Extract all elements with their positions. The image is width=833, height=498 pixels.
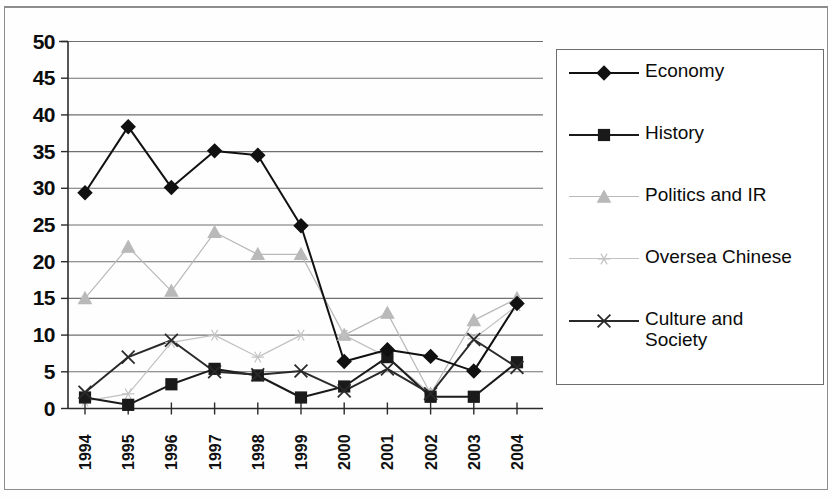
square-marker-icon bbox=[123, 399, 134, 410]
y-tick-label: 0 bbox=[44, 398, 55, 419]
triangle-marker-icon bbox=[598, 191, 611, 203]
legend-label: Politics and IR bbox=[641, 184, 766, 205]
legend-marker bbox=[593, 124, 615, 146]
diamond-marker-icon bbox=[122, 120, 135, 133]
series-markers-oversea-chinese bbox=[79, 300, 523, 406]
y-tick-label: 50 bbox=[33, 31, 55, 52]
series-markers-culture-and-society bbox=[79, 333, 524, 400]
cross-marker-icon bbox=[165, 334, 178, 347]
square-marker-icon bbox=[599, 130, 610, 141]
y-tick-label: 25 bbox=[33, 214, 55, 235]
triangle-marker-icon bbox=[567, 184, 641, 210]
legend-item-politics-and-ir[interactable]: Politics and IR bbox=[557, 184, 823, 236]
legend-item-history[interactable]: History bbox=[557, 122, 823, 174]
y-tick-label: 45 bbox=[33, 67, 55, 88]
x-tick-label: 2004 bbox=[510, 434, 526, 470]
x-tick-label: 1996 bbox=[164, 434, 180, 470]
x-tick-label: 2002 bbox=[424, 434, 440, 470]
cross-marker-icon bbox=[598, 315, 611, 328]
asterisk-marker-icon bbox=[252, 352, 264, 363]
x-tick-label: 2003 bbox=[467, 434, 483, 470]
series-line-culture-and-society bbox=[85, 340, 517, 394]
square-marker-icon bbox=[567, 122, 641, 148]
cross-marker-icon bbox=[122, 351, 135, 364]
legend-item-economy[interactable]: Economy bbox=[557, 60, 823, 112]
diamond-marker-icon bbox=[467, 364, 480, 377]
diamond-marker-icon bbox=[294, 219, 307, 232]
diamond-marker-icon bbox=[338, 355, 351, 368]
asterisk-marker-icon bbox=[295, 330, 307, 341]
chart-figure: 05101520253035404550 1994199519961997199… bbox=[0, 0, 833, 498]
y-tick-label: 5 bbox=[44, 361, 55, 382]
legend-label: Economy bbox=[641, 60, 724, 81]
y-tick-label: 20 bbox=[33, 251, 55, 272]
square-marker-icon bbox=[80, 392, 91, 403]
y-tick-label: 40 bbox=[33, 104, 55, 125]
legend-item-culture-and-society[interactable]: Culture and Society bbox=[557, 308, 823, 360]
x-tick-label: 1997 bbox=[208, 434, 224, 470]
diamond-marker-icon bbox=[597, 66, 610, 79]
chart-legend: EconomyHistoryPolitics and IROversea Chi… bbox=[556, 49, 824, 385]
y-tick-label: 35 bbox=[33, 141, 55, 162]
triangle-marker-icon bbox=[208, 226, 221, 238]
series-line-oversea-chinese bbox=[85, 306, 517, 402]
x-tick-label: 2001 bbox=[380, 434, 396, 470]
legend-marker bbox=[593, 310, 615, 332]
cross-marker-icon bbox=[381, 362, 394, 375]
asterisk-marker-icon bbox=[567, 246, 641, 272]
y-tick-label: 10 bbox=[33, 324, 55, 345]
triangle-marker-icon bbox=[251, 248, 264, 260]
legend-marker bbox=[593, 248, 615, 270]
asterisk-marker-icon bbox=[208, 330, 220, 341]
legend-marker bbox=[593, 62, 615, 84]
x-tick-label: 1995 bbox=[121, 434, 137, 470]
legend-item-oversea-chinese[interactable]: Oversea Chinese bbox=[557, 246, 823, 298]
square-marker-icon bbox=[468, 391, 479, 402]
diamond-marker-icon bbox=[251, 149, 264, 162]
cross-marker-icon bbox=[567, 308, 641, 334]
triangle-marker-icon bbox=[295, 248, 308, 260]
triangle-marker-icon bbox=[467, 314, 480, 326]
asterisk-marker-icon bbox=[598, 254, 610, 265]
series-lines-group bbox=[85, 127, 517, 405]
legend-label: History bbox=[641, 122, 704, 143]
x-tick-label: 1999 bbox=[294, 434, 310, 470]
y-tick-label: 30 bbox=[33, 177, 55, 198]
asterisk-marker-icon bbox=[122, 388, 134, 399]
y-tick-label: 15 bbox=[33, 287, 55, 308]
triangle-marker-icon bbox=[122, 241, 135, 253]
square-marker-icon bbox=[512, 357, 523, 368]
x-tick-label: 1998 bbox=[251, 434, 267, 470]
square-marker-icon bbox=[296, 392, 307, 403]
diamond-marker-icon bbox=[424, 350, 437, 363]
x-tick-label: 2000 bbox=[337, 434, 353, 470]
square-marker-icon bbox=[166, 379, 177, 390]
triangle-marker-icon bbox=[381, 307, 394, 319]
legend-label: Culture and Society bbox=[641, 308, 743, 351]
diamond-marker-icon bbox=[567, 60, 641, 86]
legend-marker bbox=[593, 186, 615, 208]
legend-label: Oversea Chinese bbox=[641, 246, 792, 267]
x-tick-label: 1994 bbox=[78, 434, 94, 470]
asterisk-marker-icon bbox=[165, 337, 177, 348]
